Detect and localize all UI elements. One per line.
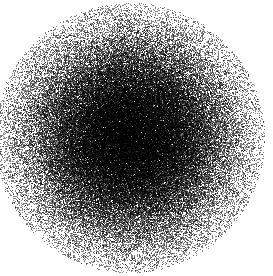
- scatter-plot-figure: [0, 0, 273, 276]
- scatter-point-cloud-canvas: [0, 0, 273, 276]
